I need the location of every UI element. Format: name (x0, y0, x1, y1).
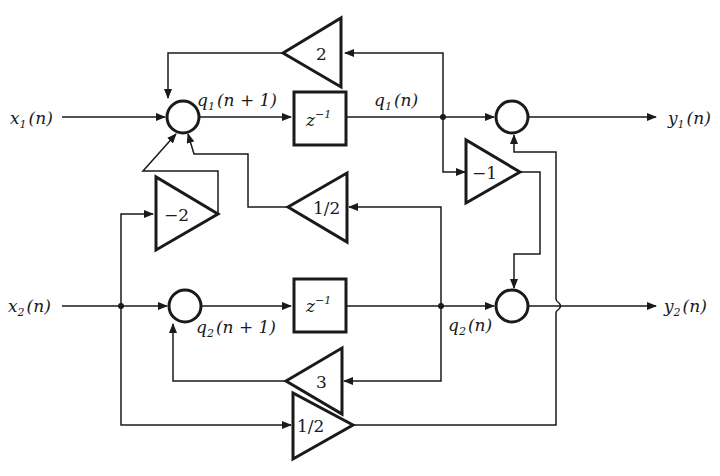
state-q1-label: q1(n) (374, 90, 418, 113)
input-x1-label: x1(n) (10, 108, 53, 131)
gain-half-lower-label: 1/2 (297, 416, 324, 436)
output-y2-label: y2(n) (663, 296, 707, 319)
wire-q1-to-gain-neg1 (443, 117, 465, 172)
gain-neg2-label: −2 (164, 205, 189, 225)
wire-q2-to-gain3 (344, 306, 441, 381)
junction-q1 (440, 114, 446, 120)
block-diagram: z−1 z−1 2 −1 1/2 −2 3 1/2 x1(n) x2(n) y1… (0, 0, 720, 476)
state-q2-next-label: q2(n + 1) (196, 317, 276, 340)
state-q2-label: q2(n) (448, 315, 492, 338)
wire-x2-to-gain-neg2 (121, 214, 153, 306)
gain-2-triangle (283, 18, 341, 87)
gain-half-upper-label: 1/2 (313, 198, 340, 218)
summer-q1 (167, 101, 199, 133)
summer-y1 (496, 101, 528, 133)
output-y1-label: y1(n) (667, 108, 711, 131)
gain-neg1-label: −1 (472, 163, 497, 183)
wire-q2-to-gain-half-upper (349, 207, 441, 306)
gain-3-label: 3 (316, 372, 327, 392)
junction-x2 (118, 303, 124, 309)
junction-q2 (438, 303, 444, 309)
gain-2-label: 2 (316, 44, 327, 64)
state-q1-next-label: q1(n + 1) (197, 90, 277, 113)
summer-y2 (496, 290, 528, 322)
input-x2-label: x2(n) (8, 296, 51, 319)
wire-gain-neg1-to-summer-out2 (514, 172, 540, 288)
